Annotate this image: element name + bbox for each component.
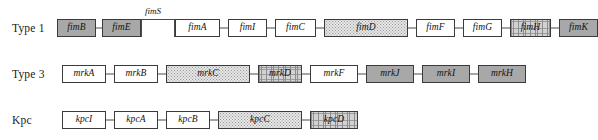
- gene-box-kpcB: kpcB: [166, 111, 210, 129]
- gene-label-mrkJ: mrkJ: [380, 69, 399, 79]
- gene-connector: [267, 28, 275, 29]
- gene-label-fimK: fimK: [569, 23, 588, 33]
- switch-left-bar: [141, 19, 142, 37]
- gene-box-mrkC: mrkC: [166, 65, 250, 83]
- gene-box-mrkF: mrkF: [310, 65, 358, 83]
- switch-top-bar: [141, 19, 175, 20]
- gene-box-fimG: fimG: [463, 19, 502, 37]
- gene-connector: [158, 74, 166, 75]
- gene-connector: [455, 28, 463, 29]
- gene-box-fimB: fimB: [57, 19, 96, 37]
- gene-label-fimE: fimE: [112, 23, 130, 33]
- gene-connector: [358, 74, 366, 75]
- gene-connector: [106, 74, 114, 75]
- gene-label-kpcI: kpcI: [76, 115, 93, 125]
- gene-box-kpcC: kpcC: [218, 111, 302, 129]
- gene-label-kpcB: kpcB: [178, 115, 197, 125]
- gene-label-fimB: fimB: [67, 23, 85, 33]
- gene-connector: [220, 28, 228, 29]
- gene-label-fimD: fimD: [356, 23, 375, 33]
- gene-label-fimA: fimA: [188, 23, 206, 33]
- gene-box-fimI: fimI: [228, 19, 267, 37]
- gene-box-fimC: fimC: [275, 19, 316, 37]
- gene-label-mrkC: mrkC: [197, 69, 219, 79]
- row-label-type-1: Type 1: [12, 22, 45, 34]
- gene-label-fimF: fimF: [426, 23, 444, 33]
- gene-connector: [470, 74, 478, 75]
- gene-connector: [302, 120, 310, 121]
- gene-label-fimG: fimG: [473, 23, 492, 33]
- gene-box-kpcD: kpcD: [310, 111, 358, 129]
- gene-box-mrkH: mrkH: [478, 65, 526, 83]
- gene-label-kpcA: kpcA: [126, 115, 145, 125]
- gene-box-mrkA: mrkA: [62, 65, 106, 83]
- gene-connector: [106, 120, 114, 121]
- gene-cluster-row-type-3: Type 3mrkAmrkBmrkCmrkDmrkFmrkJmrkImrkH: [0, 54, 528, 94]
- gene-box-fimF: fimF: [416, 19, 455, 37]
- gene-connector: [302, 74, 310, 75]
- row-label-type-3: Type 3: [12, 68, 45, 80]
- gene-label-mrkH: mrkH: [491, 69, 513, 79]
- gene-cluster-row-kpc: KpckpcIkpcAkpcBkpcCkpcD: [0, 100, 528, 140]
- gene-label-mrkF: mrkF: [324, 69, 345, 79]
- gene-box-kpcA: kpcA: [114, 111, 158, 129]
- gene-box-kpcI: kpcI: [62, 111, 106, 129]
- gene-box-fimE: fimE: [102, 19, 141, 37]
- switch-right-bar: [174, 19, 175, 37]
- gene-label-mrkA: mrkA: [74, 69, 95, 79]
- gene-connector: [551, 28, 559, 29]
- gene-connector: [158, 120, 166, 121]
- gene-connector: [210, 120, 218, 121]
- gene-label-kpcD: kpcD: [324, 115, 344, 125]
- gene-connector: [408, 28, 416, 29]
- gene-box-mrkI: mrkI: [422, 65, 470, 83]
- gene-label-fimC: fimC: [286, 23, 305, 33]
- gene-connector: [502, 28, 510, 29]
- gene-box-mrkJ: mrkJ: [366, 65, 414, 83]
- gene-box-fimD: fimD: [324, 19, 408, 37]
- gene-connector: [414, 74, 422, 75]
- gene-connector: [250, 74, 258, 75]
- fim-switch-element: [141, 8, 175, 48]
- gene-box-mrkD: mrkD: [258, 65, 302, 83]
- gene-label-kpcC: kpcC: [250, 115, 270, 125]
- gene-box-fimH: fimH: [510, 19, 551, 37]
- gene-label-fimI: fimI: [240, 23, 256, 33]
- gene-box-fimK: fimK: [559, 19, 598, 37]
- gene-box-mrkB: mrkB: [114, 65, 158, 83]
- gene-label-mrkD: mrkD: [269, 69, 291, 79]
- gene-box-fimA: fimA: [175, 19, 220, 37]
- gene-label-mrkB: mrkB: [126, 69, 147, 79]
- gene-connector: [316, 28, 324, 29]
- row-label-kpc: Kpc: [12, 114, 32, 126]
- gene-cluster-row-type-1: Type 1fimSfimBfimEfimAfimIfimCfimDfimFfi…: [0, 8, 528, 48]
- gene-label-fimH: fimH: [521, 23, 540, 33]
- gene-label-mrkI: mrkI: [437, 69, 455, 79]
